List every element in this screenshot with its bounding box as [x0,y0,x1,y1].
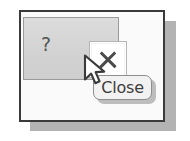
close-tooltip: Close [93,75,152,100]
application-window: ? [19,10,165,122]
question-mark-icon: ? [41,35,51,54]
help-button[interactable]: ? [33,31,59,57]
tooltip-label: Close [101,80,144,96]
close-button[interactable] [89,41,127,78]
illustration-canvas: ? Close [0,0,190,141]
close-x-icon [98,50,118,70]
